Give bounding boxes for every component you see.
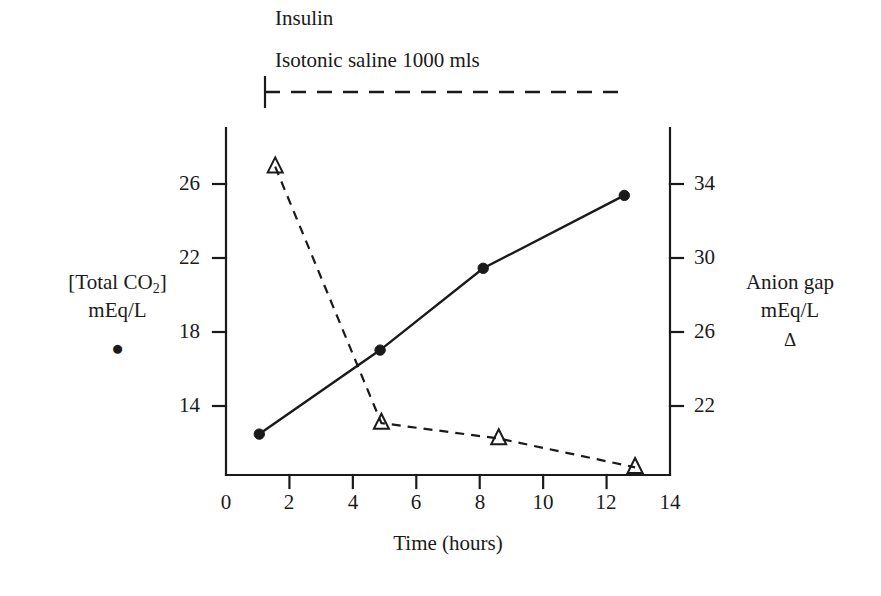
series-line [275, 167, 635, 468]
data-point-triangle [491, 429, 506, 444]
data-point-circle [375, 345, 385, 355]
figure-container: Insulin Isotonic saline 1000 mls [Total … [0, 0, 881, 596]
data-series-group [254, 157, 643, 473]
data-point-circle [254, 429, 264, 439]
data-point-triangle [268, 157, 283, 172]
data-point-circle [478, 263, 488, 273]
axes-group [213, 128, 683, 488]
chart-plot-area [0, 0, 881, 596]
data-point-circle [619, 190, 629, 200]
infusion-timeline-group [265, 76, 625, 108]
series-line [259, 195, 624, 434]
